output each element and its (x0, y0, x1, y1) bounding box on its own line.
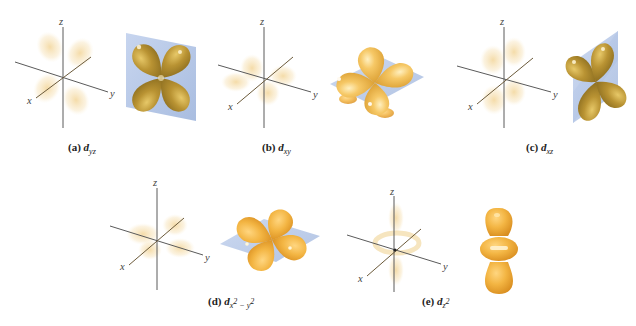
probability-cloud-c (480, 37, 526, 115)
panel-c: z y x (457, 16, 631, 128)
axis-label-y: y (552, 89, 558, 100)
orbital-model-e (480, 208, 518, 294)
orbital-superscript-2: 2 (250, 297, 254, 306)
axis-label-z: z (499, 16, 504, 27)
axis-label-x: x (357, 273, 363, 284)
panel-b: z y x (218, 16, 424, 128)
probability-cloud-b (221, 54, 297, 106)
axis-label-x: x (26, 95, 32, 106)
panel-d: z y x (110, 177, 320, 290)
axis-label-z: z (259, 16, 264, 27)
probability-cloud-d (126, 214, 195, 260)
orbital-model-d (220, 205, 320, 275)
orbital-model-b (330, 45, 424, 118)
caption-e: (e) dz2 (422, 295, 450, 312)
axes-b: z y x (218, 16, 318, 128)
panel-e: z y x (347, 186, 518, 294)
axis-label-y: y (109, 88, 115, 99)
axis-label-z: z (58, 16, 63, 27)
panel-a: z y x (15, 16, 196, 128)
caption-tag: (b) (262, 141, 275, 153)
orbital-subscript: xy (284, 147, 291, 156)
orbital-figure: z y x z (0, 0, 636, 326)
axes-d: z y x (110, 177, 210, 290)
axis-label-y: y (204, 252, 210, 263)
axis-label-x: x (227, 101, 233, 112)
caption-tag: (c) (526, 141, 538, 153)
probability-cloud-e (375, 202, 419, 286)
axis-label-x: x (467, 101, 473, 112)
caption-c: (c) dxz (526, 141, 553, 158)
caption-tag: (a) (68, 141, 81, 153)
orbital-model-a (126, 33, 196, 121)
caption-b: (b) dxy (262, 141, 291, 158)
axes-c: z y x (457, 16, 558, 128)
axis-label-z: z (152, 177, 157, 188)
axes-a: z y x (15, 16, 115, 128)
orbital-model-c (561, 31, 632, 123)
caption-tag: (d) (208, 295, 221, 307)
axis-label-z: z (389, 186, 394, 197)
caption-a: (a) dyz (68, 141, 96, 158)
orbital-superscript: 2 (446, 297, 450, 306)
orbital-subscript: xz (546, 147, 553, 156)
axis-label-x: x (119, 261, 125, 272)
caption-tag: (e) (422, 295, 434, 307)
caption-d: (d) dx2 − y2 (208, 295, 254, 312)
axis-label-y: y (442, 261, 448, 272)
orbital-subscript: yz (89, 147, 96, 156)
orbital-subscript-2: − y (237, 301, 250, 310)
axis-label-y: y (312, 89, 318, 100)
